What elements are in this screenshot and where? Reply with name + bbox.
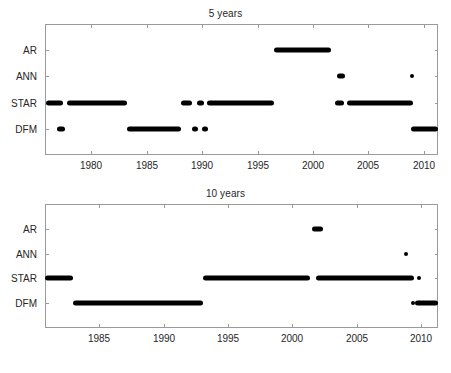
plot-area-5-years bbox=[45, 24, 438, 155]
data-run-star bbox=[335, 100, 344, 105]
x-tick-mark-top-1980 bbox=[91, 24, 92, 28]
y-tick-mark-dfm bbox=[45, 129, 49, 130]
x-tick-label-2000: 2000 bbox=[302, 160, 324, 171]
y-tick-mark-right-star bbox=[435, 103, 438, 104]
y-tick-mark-right-ar bbox=[435, 50, 438, 51]
x-tick-label-1995: 1995 bbox=[217, 333, 239, 344]
data-run-dfm bbox=[192, 126, 198, 131]
data-run-star bbox=[46, 100, 63, 105]
x-tick-label-2000: 2000 bbox=[281, 333, 303, 344]
x-tick-mark-top-2005 bbox=[368, 24, 369, 28]
y-tick-label-ann: ANN bbox=[0, 248, 37, 259]
x-tick-mark-top-1985 bbox=[99, 204, 100, 208]
y-tick-label-ann: ANN bbox=[0, 71, 37, 82]
x-tick-mark-1990 bbox=[164, 324, 165, 328]
data-run-star bbox=[316, 276, 414, 281]
data-run-dfm bbox=[73, 301, 203, 306]
y-tick-label-star: STAR bbox=[0, 273, 37, 284]
plot-area-10-years bbox=[45, 204, 438, 328]
x-tick-mark-1995 bbox=[258, 151, 259, 155]
x-tick-mark-top-1995 bbox=[228, 204, 229, 208]
x-tick-label-1990: 1990 bbox=[153, 333, 175, 344]
y-tick-label-ar: AR bbox=[0, 45, 37, 56]
data-run-dfm bbox=[57, 126, 65, 131]
data-point-star bbox=[417, 276, 421, 280]
x-tick-label-1990: 1990 bbox=[191, 160, 213, 171]
x-tick-mark-2000 bbox=[313, 151, 314, 155]
x-tick-mark-2010 bbox=[424, 151, 425, 155]
y-tick-mark-right-ar bbox=[435, 229, 438, 230]
data-run-star bbox=[207, 100, 275, 105]
x-tick-label-1995: 1995 bbox=[247, 160, 269, 171]
y-tick-label-dfm: DFM bbox=[0, 298, 37, 309]
data-run-star bbox=[45, 276, 73, 281]
x-tick-label-2005: 2005 bbox=[357, 160, 379, 171]
data-run-dfm bbox=[415, 301, 438, 306]
y-tick-mark-right-ann bbox=[435, 76, 438, 77]
x-tick-mark-2000 bbox=[292, 324, 293, 328]
x-tick-mark-top-1985 bbox=[147, 24, 148, 28]
data-point-ann bbox=[404, 252, 408, 256]
figure-model-timeline: 5 years ARANNSTARDFM19801985199019952000… bbox=[0, 0, 451, 373]
y-tick-mark-ar bbox=[45, 50, 49, 51]
data-run-star bbox=[67, 100, 127, 105]
x-tick-mark-top-2010 bbox=[421, 204, 422, 208]
x-tick-label-1985: 1985 bbox=[136, 160, 158, 171]
x-tick-mark-1995 bbox=[228, 324, 229, 328]
panel-10-years: 10 years ARANNSTARDFM1985199019952000200… bbox=[0, 180, 451, 373]
y-tick-label-dfm: DFM bbox=[0, 123, 37, 134]
data-run-star bbox=[197, 100, 205, 105]
x-tick-mark-top-2000 bbox=[313, 24, 314, 28]
y-tick-mark-ann bbox=[45, 76, 49, 77]
x-tick-mark-1990 bbox=[202, 151, 203, 155]
panel-title-10-years: 10 years bbox=[0, 188, 451, 199]
x-tick-mark-1980 bbox=[91, 151, 92, 155]
x-tick-mark-top-1995 bbox=[258, 24, 259, 28]
x-tick-mark-top-2005 bbox=[357, 204, 358, 208]
x-tick-label-2010: 2010 bbox=[413, 160, 435, 171]
x-tick-label-2010: 2010 bbox=[410, 333, 432, 344]
y-tick-label-ar: AR bbox=[0, 223, 37, 234]
data-run-star bbox=[203, 276, 310, 281]
y-tick-mark-right-star bbox=[435, 278, 438, 279]
data-run-star bbox=[181, 100, 192, 105]
x-tick-label-1985: 1985 bbox=[88, 333, 110, 344]
x-tick-mark-1985 bbox=[147, 151, 148, 155]
x-tick-mark-2005 bbox=[368, 151, 369, 155]
x-tick-label-1980: 1980 bbox=[80, 160, 102, 171]
x-tick-mark-top-1990 bbox=[164, 204, 165, 208]
x-tick-mark-top-2000 bbox=[292, 204, 293, 208]
x-tick-mark-1985 bbox=[99, 324, 100, 328]
x-tick-label-2005: 2005 bbox=[346, 333, 368, 344]
data-run-ar bbox=[312, 226, 324, 231]
x-tick-mark-top-2010 bbox=[424, 24, 425, 28]
x-tick-mark-2010 bbox=[421, 324, 422, 328]
panel-5-years: 5 years ARANNSTARDFM19801985199019952000… bbox=[0, 0, 451, 186]
y-tick-label-star: STAR bbox=[0, 97, 37, 108]
data-run-dfm bbox=[202, 126, 208, 131]
y-tick-mark-ar bbox=[45, 229, 49, 230]
x-tick-mark-2005 bbox=[357, 324, 358, 328]
data-run-ar bbox=[274, 48, 330, 53]
y-tick-mark-right-ann bbox=[435, 254, 438, 255]
y-tick-mark-dfm bbox=[45, 303, 49, 304]
data-run-ann bbox=[337, 74, 345, 79]
data-run-star bbox=[347, 100, 412, 105]
data-point-ann bbox=[410, 74, 414, 78]
y-tick-mark-ann bbox=[45, 254, 49, 255]
x-tick-mark-top-1990 bbox=[202, 24, 203, 28]
data-run-dfm bbox=[411, 126, 438, 131]
panel-title-5-years: 5 years bbox=[0, 8, 451, 19]
data-run-dfm bbox=[127, 126, 181, 131]
